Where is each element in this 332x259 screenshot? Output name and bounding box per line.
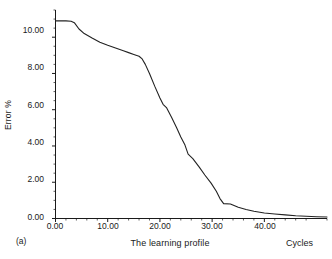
error-curve [56, 21, 328, 217]
axis-lines [55, 10, 327, 219]
chart-figure: Error % 0.00 2.00 4.00 6.00 8.00 10.00 0… [0, 0, 332, 259]
x-tick-label-1: 10.00 [86, 222, 130, 231]
x-tick-label-0: 0.00 [33, 222, 77, 231]
x-axis-title: The learning profile [95, 238, 245, 248]
panel-label: (a) [16, 236, 26, 246]
x-tick-label-3: 30.00 [190, 222, 234, 231]
y-axis-ticks [52, 10, 56, 219]
y-axis-title: Error % [3, 85, 13, 145]
x-tick-label-4: 40.00 [243, 222, 287, 231]
y-tick-label-0: 0.00 [4, 213, 44, 222]
y-tick-label-5: 10.00 [4, 26, 44, 35]
x-tick-label-2: 20.00 [138, 222, 182, 231]
y-tick-label-3: 6.00 [4, 101, 44, 110]
y-tick-label-1: 2.00 [4, 175, 44, 184]
x-axis-units-label: Cycles [286, 238, 313, 248]
y-tick-label-2: 4.00 [4, 138, 44, 147]
y-tick-label-4: 8.00 [4, 63, 44, 72]
